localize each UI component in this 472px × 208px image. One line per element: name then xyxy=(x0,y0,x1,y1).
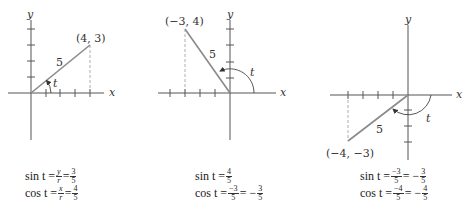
fraction: 45 xyxy=(226,168,232,185)
terminal-ray xyxy=(31,45,90,93)
formulas-2: sin t = 45 cos t = −35 = − 35 xyxy=(195,168,264,202)
cos-lhs: cos t = xyxy=(195,186,227,201)
sin-formula: sin t = yr = 35 xyxy=(25,168,79,185)
angle-label: t xyxy=(250,66,255,79)
denominator: 5 xyxy=(72,194,78,202)
diagram-1: y x (4, 3) 5 t xyxy=(8,8,116,140)
terminal-ray xyxy=(185,29,230,93)
fraction: 45 xyxy=(422,185,428,202)
fraction: 35 xyxy=(257,185,263,202)
angle-label: t xyxy=(53,77,58,90)
equals: = − xyxy=(403,169,420,184)
point-label: (4, 3) xyxy=(76,32,106,45)
fraction: 35 xyxy=(420,168,426,185)
diagram-2: y x (−3, 4) 5 t xyxy=(158,8,287,140)
point-label: (−4, −3) xyxy=(326,147,374,160)
sin-formula: sin t = 45 xyxy=(195,168,264,185)
diagram-3: y x (−4, −3) 5 t xyxy=(326,13,463,160)
y-axis-label: y xyxy=(226,8,234,21)
x-axis-label: x xyxy=(280,86,287,99)
angle-label: t xyxy=(426,112,431,125)
equals: = xyxy=(63,169,70,184)
fraction: 35 xyxy=(70,168,76,185)
denominator: 5 xyxy=(230,194,236,202)
sin-lhs: sin t = xyxy=(195,169,225,184)
cos-lhs: cos t = xyxy=(360,186,392,201)
hypotenuse-label: 5 xyxy=(56,56,63,69)
equals: = − xyxy=(240,186,257,201)
equals: = xyxy=(65,186,72,201)
fraction: xr xyxy=(58,185,64,202)
denominator: 5 xyxy=(257,194,263,202)
fraction: −35 xyxy=(391,168,402,185)
hypotenuse-label: 5 xyxy=(209,48,216,61)
fraction: −35 xyxy=(228,185,239,202)
formulas-3: sin t = −35 = − 35 cos t = −45 = − 45 xyxy=(360,168,429,202)
fraction: −45 xyxy=(393,185,404,202)
x-axis-label: x xyxy=(456,88,463,101)
denominator: 5 xyxy=(422,194,428,202)
sin-formula: sin t = −35 = − 35 xyxy=(360,168,429,185)
hypotenuse-label: 5 xyxy=(376,123,383,136)
equals: = − xyxy=(405,186,422,201)
y-axis-label: y xyxy=(404,13,412,26)
formulas-1: sin t = yr = 35 cos t = xr = 45 xyxy=(25,168,79,202)
denominator: r xyxy=(58,194,63,202)
angle-arc xyxy=(220,69,254,93)
x-axis-label: x xyxy=(109,86,116,99)
fraction: yr xyxy=(56,168,62,185)
denominator: 5 xyxy=(395,194,401,202)
cos-formula: cos t = xr = 45 xyxy=(25,185,79,202)
cos-formula: cos t = −45 = − 45 xyxy=(360,185,429,202)
sin-lhs: sin t = xyxy=(360,169,390,184)
cos-formula: cos t = −35 = − 35 xyxy=(195,185,264,202)
angle-arc xyxy=(47,81,52,94)
y-axis-label: y xyxy=(26,8,34,21)
fraction: 45 xyxy=(72,185,78,202)
sin-lhs: sin t = xyxy=(25,169,55,184)
cos-lhs: cos t = xyxy=(25,186,57,201)
point-label: (−3, 4) xyxy=(165,15,204,28)
